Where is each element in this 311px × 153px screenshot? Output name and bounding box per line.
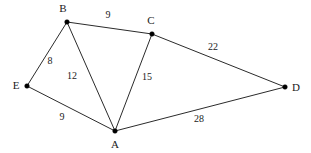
graph-canvas: 98121522928 ABCDE [0,0,311,153]
edge-weight-e-a: 9 [60,111,65,122]
edge-b-c [67,22,152,34]
node-label-b: B [59,2,66,14]
edge-weight-c-a: 15 [142,71,152,82]
node-label-d: D [292,81,300,93]
edge-weight-e-b: 8 [48,55,53,66]
edge-weight-b-c: 9 [106,9,111,20]
node-c [150,32,155,37]
node-label-e: E [13,79,20,91]
node-e [25,84,30,89]
edge-e-b [27,22,67,86]
edge-weight-a-d: 28 [194,113,204,124]
edge-weight-b-a: 12 [67,70,77,81]
node-d [283,85,288,90]
edge-weight-c-d: 22 [208,41,218,52]
node-label-a: A [111,138,119,150]
graph-diagram: 98121522928 ABCDE [0,0,311,153]
edge-weights-group: 98121522928 [48,9,219,124]
node-label-c: C [147,14,154,26]
node-a [113,129,118,134]
node-b [65,20,70,25]
edge-a-d [115,87,285,131]
edge-c-a [115,34,152,131]
edges-group [27,22,285,131]
edge-e-a [27,86,115,131]
edge-c-d [152,34,285,87]
